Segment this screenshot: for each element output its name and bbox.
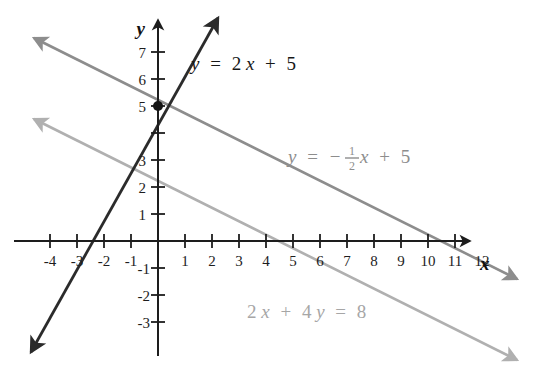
eq-mid-minus: −: [330, 146, 341, 167]
x-tick-label: -1: [125, 253, 138, 269]
y-tick-label: 2: [139, 180, 147, 196]
eq-light-coef2: 4: [302, 301, 312, 322]
x-tick-label: 6: [316, 253, 324, 269]
x-tick-label: 2: [208, 253, 216, 269]
eq-dark-coef: 2: [232, 53, 242, 74]
x-tick-label: -2: [98, 253, 111, 269]
equation-label-light-line: 2 x + 4 y = 8: [247, 301, 366, 322]
x-tick-label: 5: [289, 253, 297, 269]
intersection-point-dot: [153, 101, 163, 111]
eq-light-plus: +: [280, 301, 291, 322]
eq-dark-equals: =: [210, 53, 221, 74]
eq-dark-plus: +: [265, 53, 276, 74]
x-tick-label: 11: [448, 253, 462, 269]
eq-mid-prefix: y = −: [286, 146, 340, 167]
x-tick-label: 9: [397, 253, 405, 269]
eq-mid-numerator: 1: [349, 144, 355, 158]
x-axis-name: x: [479, 253, 490, 274]
y-axis-name: y: [135, 18, 146, 39]
y-tick-label: 6: [139, 72, 147, 88]
y-tick-label: 3: [139, 153, 147, 169]
eq-mid-lhs: y: [286, 146, 297, 167]
eq-dark-const: 5: [287, 53, 297, 74]
eq-light-var1: x: [260, 301, 270, 322]
x-tick-label: 10: [421, 253, 436, 269]
eq-light-var2: y: [314, 301, 325, 322]
y-tick-label: -2: [138, 288, 151, 304]
y-tick-label: -3: [138, 315, 151, 331]
eq-mid-denominator: 2: [349, 159, 355, 173]
eq-mid-suffix: x + 5: [359, 146, 410, 167]
eq-mid-const: 5: [401, 146, 411, 167]
y-tick-label: 1: [139, 207, 147, 223]
coordinate-plane-svg: -4 -3 -2 -1 1 2 3 4 5 6 7 8 9 10 11 12 7…: [0, 0, 534, 366]
x-tick-label: 1: [181, 253, 189, 269]
y-tick-label: 5: [139, 99, 147, 115]
y-tick-label: -1: [138, 261, 151, 277]
x-tick-label: -3: [71, 253, 84, 269]
eq-mid-plus: +: [379, 146, 390, 167]
x-tick-label: 7: [343, 253, 351, 269]
x-tick-label: 8: [370, 253, 378, 269]
y-tick-label: 7: [139, 45, 147, 61]
x-tick-label: 3: [235, 253, 243, 269]
eq-dark-lhs: y: [189, 53, 200, 74]
eq-mid-equals: =: [307, 146, 318, 167]
graph-figure: -4 -3 -2 -1 1 2 3 4 5 6 7 8 9 10 11 12 7…: [0, 0, 534, 366]
eq-light-coef1: 2: [247, 301, 257, 322]
eq-light-rhs: 8: [357, 301, 367, 322]
eq-mid-var: x: [359, 146, 369, 167]
eq-light-equals: =: [335, 301, 346, 322]
x-tick-label: 4: [262, 253, 270, 269]
x-tick-label: -4: [44, 253, 57, 269]
eq-dark-var: x: [245, 53, 255, 74]
